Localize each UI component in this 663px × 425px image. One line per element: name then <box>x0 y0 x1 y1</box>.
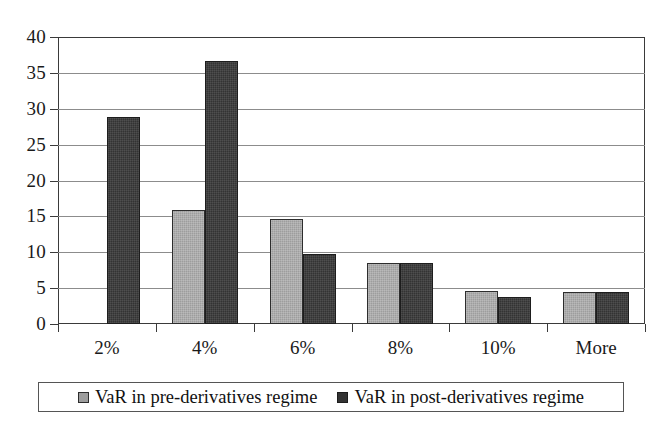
gridline <box>58 181 645 182</box>
bar <box>303 254 336 324</box>
bar <box>498 297 531 324</box>
gridline <box>58 145 645 146</box>
y-axis-tick-label: 30 <box>6 99 46 118</box>
y-axis-tick <box>50 145 58 146</box>
y-axis-tick-label: 35 <box>6 63 46 82</box>
x-axis-tick-label: 8% <box>352 337 450 359</box>
x-axis-tick-label: 4% <box>156 337 254 359</box>
bar <box>465 291 498 324</box>
x-axis-tick-label: 2% <box>58 337 156 359</box>
y-axis-tick-label: 20 <box>6 171 46 190</box>
x-axis-tick-label: More <box>547 337 645 359</box>
bar <box>172 210 205 324</box>
dark-gray-swatch-icon <box>337 392 348 403</box>
chart-legend: VaR in pre-derivatives regime VaR in pos… <box>38 382 624 412</box>
light-gray-swatch-icon <box>78 392 89 403</box>
bar-group <box>74 37 140 324</box>
legend-item-pre: VaR in pre-derivatives regime <box>78 387 317 407</box>
bar <box>596 292 629 324</box>
y-axis-tick-label: 10 <box>6 242 46 261</box>
x-axis-tick <box>449 324 450 332</box>
x-axis-tick <box>58 324 59 332</box>
bar <box>400 263 433 324</box>
y-axis-tick-label: 15 <box>6 206 46 225</box>
legend-label-pre: VaR in pre-derivatives regime <box>95 387 317 407</box>
legend-item-post: VaR in post-derivatives regime <box>337 387 584 407</box>
bar-group <box>172 37 238 324</box>
y-axis-tick-label: 0 <box>6 314 46 333</box>
gridline <box>58 216 645 217</box>
bar-group <box>270 37 336 324</box>
y-axis-tick <box>50 252 58 253</box>
y-axis-tick <box>50 109 58 110</box>
y-axis-tick <box>50 324 58 325</box>
bar-group <box>465 37 531 324</box>
bar <box>107 117 140 324</box>
y-axis-tick <box>50 37 58 38</box>
gridline <box>58 288 645 289</box>
bar <box>563 292 596 324</box>
bar-group <box>367 37 433 324</box>
bar <box>270 219 303 324</box>
y-axis-tick <box>50 73 58 74</box>
bar-group <box>563 37 629 324</box>
x-axis-tick-label: 10% <box>449 337 547 359</box>
plot-area <box>58 37 645 324</box>
bar <box>367 263 400 324</box>
legend-label-post: VaR in post-derivatives regime <box>354 387 584 407</box>
y-axis-tick-label: 40 <box>6 27 46 46</box>
x-axis-tick <box>352 324 353 332</box>
x-axis-tick <box>547 324 548 332</box>
bar-chart: 0510152025303540 2%4%6%8%10%More VaR in … <box>0 0 663 425</box>
gridline <box>58 252 645 253</box>
gridline <box>58 109 645 110</box>
x-axis-tick <box>254 324 255 332</box>
gridline <box>58 73 645 74</box>
y-axis-tick <box>50 288 58 289</box>
x-axis-tick <box>645 324 646 332</box>
y-axis-tick <box>50 181 58 182</box>
x-axis-tick-label: 6% <box>254 337 352 359</box>
y-axis-tick <box>50 216 58 217</box>
y-axis-tick-label: 25 <box>6 135 46 154</box>
y-axis-tick-label: 5 <box>6 278 46 297</box>
bar <box>205 61 238 324</box>
x-axis-tick <box>156 324 157 332</box>
